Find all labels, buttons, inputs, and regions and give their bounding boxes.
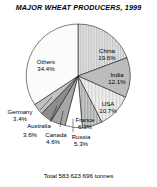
- slice-label-germany-pct: 3.4%: [13, 115, 27, 122]
- wheat-producers-pie-figure: MAJOR WHEAT PRODUCERS, 1999: [0, 0, 157, 187]
- slice-label-russia-name: Russia: [72, 133, 91, 140]
- slice-label-china-pct: 19.6%: [98, 54, 116, 61]
- slice-label-others-pct: 34.4%: [37, 65, 55, 72]
- slice-label-russia-pct: 5.3%: [74, 140, 88, 147]
- chart-title: MAJOR WHEAT PRODUCERS, 1999: [0, 3, 157, 12]
- slice-label-india-pct: 12.1%: [108, 78, 126, 85]
- slice-label-france-pct: 6.3%: [78, 123, 92, 130]
- slice-label-others-name: Others: [37, 58, 55, 65]
- total-caption: Total 583 623 696 tonnes: [0, 172, 157, 179]
- slice-label-india-name: India: [110, 71, 124, 78]
- slice-label-australia-pct: 3.6%: [23, 131, 37, 138]
- slice-label-canada-name: Canada: [45, 131, 67, 138]
- pie-chart-svg: China 19.6% India 12.1% USA 10.7% France…: [0, 14, 157, 166]
- pie-chart-area: China 19.6% India 12.1% USA 10.7% France…: [0, 14, 157, 166]
- slice-label-canada-pct: 4.6%: [46, 138, 60, 145]
- slice-label-china-name: China: [99, 47, 116, 54]
- slice-label-usa-pct: 10.7%: [99, 107, 117, 114]
- slice-label-france-name: France: [76, 116, 96, 123]
- slice-label-usa-name: USA: [102, 100, 115, 107]
- slice-label-australia-name: Australia: [27, 122, 51, 129]
- slice-label-germany-name: Germany: [7, 108, 33, 115]
